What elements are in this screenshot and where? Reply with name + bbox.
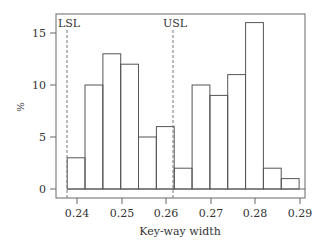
histogram-bars: [67, 23, 299, 189]
x-tick-label: 0.25: [110, 207, 135, 220]
histogram-bar: [228, 75, 246, 189]
y-tick-label: 10: [32, 79, 46, 92]
x-tick-label: 0.28: [243, 207, 268, 220]
x-tick-label: 0.24: [65, 207, 90, 220]
histogram-bar: [192, 85, 210, 189]
histogram-bar: [246, 23, 264, 189]
histogram-bar: [210, 95, 228, 189]
x-tick-label: 0.27: [199, 207, 224, 220]
y-axis: [50, 33, 56, 189]
histogram-bar: [263, 168, 281, 189]
x-tick-label: 0.29: [288, 207, 313, 220]
histogram-bar: [174, 168, 192, 189]
y-tick-label: 0: [39, 183, 46, 196]
lsl-label: LSL: [58, 17, 81, 30]
x-tick-label: 0.26: [154, 207, 179, 220]
histogram-bar: [156, 127, 174, 189]
histogram-bar: [85, 85, 103, 189]
y-tick-label: 5: [39, 131, 46, 144]
usl-label: USL: [163, 17, 188, 30]
x-axis: [77, 198, 300, 204]
histogram-bar: [281, 179, 299, 189]
plot-frame: [56, 14, 305, 198]
histogram-bar: [103, 54, 121, 189]
x-axis-label: Key-way width: [139, 225, 221, 238]
histogram-bar: [67, 158, 85, 189]
y-tick-label: 15: [32, 27, 46, 40]
histogram-bar: [139, 137, 157, 189]
histogram-chart: LSL USL 0 5 10 15 % 0.24 0.25 0.26 0.27 …: [0, 0, 327, 244]
histogram-bar: [121, 64, 139, 189]
y-axis-label: %: [15, 102, 26, 112]
